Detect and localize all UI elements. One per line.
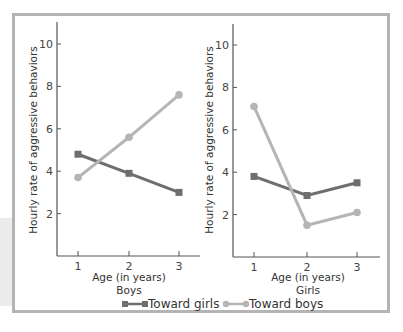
data-point-square-icon xyxy=(304,192,311,199)
legend-square-marker-icon xyxy=(122,301,128,307)
data-point-circle-icon xyxy=(303,221,311,229)
y-axis-title-boys: Hourly rate of aggressive behaviors xyxy=(27,46,39,234)
legend-circle-marker-icon xyxy=(223,301,229,307)
y-tick-label: 6 xyxy=(46,123,53,136)
x-tick-label: 2 xyxy=(304,261,311,274)
x-tick-label: 1 xyxy=(75,260,82,273)
data-point-square-icon xyxy=(126,170,133,177)
y-tick-label: 2 xyxy=(222,209,229,222)
data-point-circle-icon xyxy=(125,133,133,141)
y-tick-label: 2 xyxy=(46,208,53,221)
data-point-circle-icon xyxy=(353,209,361,217)
x-tick-label: 3 xyxy=(354,261,361,274)
plot-area-girls: 246810123 xyxy=(215,24,380,274)
x-tick-label: 2 xyxy=(126,260,133,273)
data-point-square-icon xyxy=(251,173,258,180)
y-tick-label: 10 xyxy=(39,38,53,51)
x-tick-label: 3 xyxy=(176,260,183,273)
group-label-girls: Girls xyxy=(296,284,320,296)
data-point-square-icon xyxy=(75,151,82,158)
legend-label-toward-girls: Toward girls xyxy=(147,297,219,311)
y-tick-label: 10 xyxy=(215,39,229,52)
chart-canvas: Hourly rate of aggressive behaviors Age … xyxy=(0,0,403,332)
y-tick-label: 4 xyxy=(222,166,229,179)
x-tick-label: 1 xyxy=(251,261,258,274)
y-tick-label: 4 xyxy=(46,165,53,178)
data-point-circle-icon xyxy=(250,103,258,111)
y-tick-label: 6 xyxy=(222,124,229,137)
data-point-square-icon xyxy=(176,189,183,196)
legend-label-toward-boys: Toward boys xyxy=(248,297,323,311)
data-point-square-icon xyxy=(354,179,361,186)
series-line-toward-boys xyxy=(254,106,357,225)
data-point-circle-icon xyxy=(175,91,183,99)
plot-area-boys: 246810123 xyxy=(39,22,200,273)
y-axis-title-girls: Hourly rate of aggressive behaviors xyxy=(203,46,215,234)
legend: Toward girls Toward boys xyxy=(122,297,323,311)
group-label-boys: Boys xyxy=(116,284,141,296)
data-point-circle-icon xyxy=(74,174,82,182)
y-tick-label: 8 xyxy=(222,81,229,94)
y-tick-label: 8 xyxy=(46,80,53,93)
